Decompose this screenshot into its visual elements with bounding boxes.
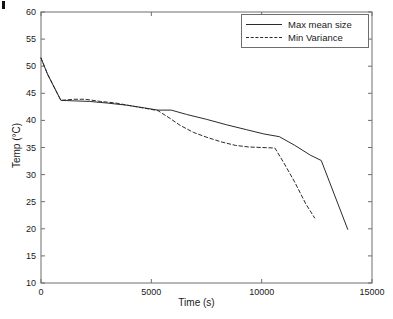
y-tick-label: 60 [8,7,36,17]
x-tick-label: 10000 [249,287,274,297]
axis-ticks [41,12,372,283]
series-line-min-variance [41,58,315,218]
legend-item-max-mean-size: Max mean size [246,18,364,31]
y-axis-title: Temp (°C) [11,86,22,206]
legend-line-sample-dashed [246,37,282,39]
data-series-group [41,58,348,229]
axes-frame [41,12,372,283]
figure-canvas: 1015202530354045505560050001000015000 Ti… [0,0,393,319]
y-tick-label: 15 [8,251,36,261]
x-tick-label: 0 [38,287,43,297]
series-line-max-mean-size [41,58,348,229]
x-axis-title: Time (s) [0,297,393,308]
legend-item-min-variance: Min Variance [246,31,364,44]
plot-frame-box [41,12,372,283]
x-tick-label: 15000 [359,287,384,297]
legend-label-min-variance: Min Variance [288,32,343,43]
legend-line-sample-solid [246,24,282,26]
y-tick-label: 10 [8,278,36,288]
chart-legend: Max mean size Min Variance [241,14,369,48]
y-tick-label: 55 [8,34,36,44]
legend-label-max-mean-size: Max mean size [288,19,352,30]
x-tick-label: 5000 [141,287,161,297]
y-tick-label: 50 [8,61,36,71]
y-tick-label: 20 [8,224,36,234]
